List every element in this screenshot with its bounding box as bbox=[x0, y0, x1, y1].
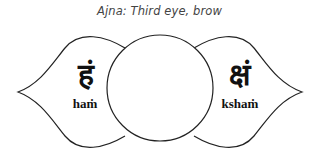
right-bija-label: kshaṁ bbox=[210, 97, 270, 110]
ajna-chakra-diagram bbox=[0, 0, 319, 159]
left-bija-glyph: हं bbox=[66, 60, 106, 90]
left-bija-label: haṁ bbox=[60, 97, 110, 110]
right-bija-glyph: क्षं bbox=[210, 60, 270, 90]
central-circle bbox=[107, 35, 213, 141]
